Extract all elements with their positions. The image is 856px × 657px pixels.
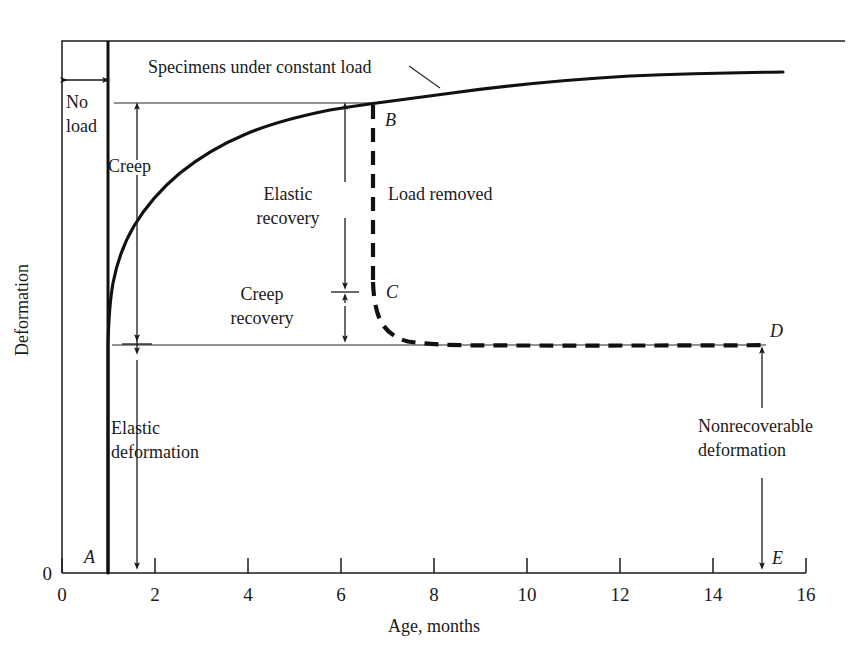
- creep-recovery-label-line2: recovery: [231, 308, 294, 328]
- elastic-deformation-label-line1: Elastic: [111, 418, 160, 438]
- point-label-a: A: [83, 547, 96, 567]
- specimens-label: Specimens under constant load: [148, 57, 371, 77]
- elastic-deformation-annotation: Elastic deformation: [111, 338, 199, 566]
- no-load-label-line1: No: [66, 92, 88, 112]
- nonrecoverable-label-line2: deformation: [698, 440, 786, 460]
- x-axis: 0 2 4 6 8 10 12 14 16 Age, months: [57, 558, 815, 636]
- elastic-recovery-label-line2: recovery: [257, 208, 320, 228]
- x-tick-label-14: 14: [704, 584, 724, 605]
- no-load-label-line2: load: [66, 116, 97, 136]
- y-axis-title: Deformation: [12, 264, 32, 356]
- x-tick-label-8: 8: [429, 584, 439, 605]
- creep-recovery-label-line1: Creep: [241, 284, 284, 304]
- creep-curve-solid: [108, 72, 783, 573]
- y-tick-label-0: 0: [43, 563, 53, 584]
- x-tick-label-0: 0: [57, 584, 67, 605]
- point-label-b: B: [385, 110, 396, 130]
- point-label-e: E: [771, 548, 783, 568]
- creep-diagram-svg: 0 2 4 6 8 10 12 14 16 Age, months 0 Defo…: [0, 0, 856, 657]
- point-label-d: D: [769, 321, 783, 341]
- elastic-recovery-annotation: Elastic recovery: [257, 106, 359, 292]
- x-tick-label-10: 10: [518, 584, 537, 605]
- nonrecoverable-label-line1: Nonrecoverable: [698, 416, 813, 436]
- elastic-deformation-label-line2: deformation: [111, 442, 199, 462]
- no-load-annotation: No load: [64, 80, 106, 136]
- nonrecoverable-annotation: Nonrecoverable deformation: [698, 350, 813, 566]
- y-axis: 0 Deformation: [12, 264, 52, 584]
- load-removed-label: Load removed: [388, 184, 492, 204]
- x-axis-title: Age, months: [388, 616, 480, 636]
- creep-annotation: Creep: [108, 106, 152, 344]
- x-tick-label-16: 16: [797, 584, 816, 605]
- frame-path: [62, 41, 845, 573]
- figure-canvas: 0 2 4 6 8 10 12 14 16 Age, months 0 Defo…: [0, 0, 856, 657]
- recovery-curve-tail: [373, 282, 764, 346]
- x-tick-label-4: 4: [243, 584, 253, 605]
- x-tick-label-12: 12: [611, 584, 630, 605]
- creep-label: Creep: [108, 156, 151, 176]
- x-tick-label-6: 6: [336, 584, 346, 605]
- elastic-recovery-label-line1: Elastic: [264, 184, 313, 204]
- specimens-annotation: Specimens under constant load: [148, 57, 440, 88]
- plot-frame: [62, 41, 845, 573]
- point-label-c: C: [386, 282, 399, 302]
- specimens-leader-line: [409, 66, 440, 88]
- reference-lines: [112, 103, 766, 345]
- creep-recovery-annotation: Creep recovery: [231, 284, 345, 339]
- x-tick-label-2: 2: [150, 584, 160, 605]
